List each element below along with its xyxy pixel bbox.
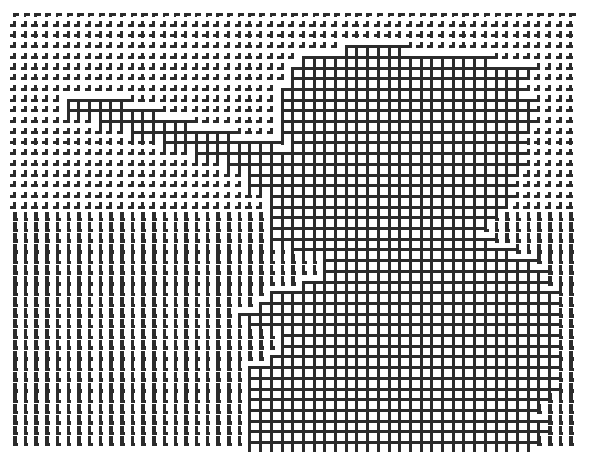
grid-stroke (131, 239, 136, 243)
grid-stroke (45, 250, 50, 254)
grid-stroke (548, 138, 551, 144)
grid-stroke (398, 45, 401, 56)
grid-stroke (184, 74, 187, 80)
grid-stroke (430, 388, 433, 399)
grid-stroke (366, 281, 369, 292)
grid-stroke (569, 250, 574, 254)
grid-stroke (452, 420, 455, 431)
grid-stroke (24, 336, 29, 340)
grid-stroke (99, 42, 102, 48)
grid-stroke (45, 325, 50, 329)
grid-stroke (430, 88, 433, 99)
grid-stroke (505, 109, 508, 120)
grid-stroke (259, 313, 262, 324)
grid-stroke (99, 229, 104, 233)
grid-stroke (109, 378, 114, 382)
grid-stroke (238, 239, 243, 243)
grid-stroke (24, 106, 27, 112)
grid-stroke (313, 88, 316, 99)
grid-stroke (377, 131, 380, 142)
grid-stroke (441, 355, 444, 366)
grid-stroke (259, 398, 262, 409)
grid-stroke (345, 120, 348, 131)
grid-stroke (206, 271, 211, 275)
grid-stroke (559, 304, 564, 308)
grid-stroke (56, 63, 59, 69)
grid-stroke (88, 432, 93, 436)
grid-stroke (152, 261, 157, 265)
grid-stroke (24, 411, 29, 415)
grid-stroke (131, 389, 136, 393)
grid-stroke (409, 441, 412, 452)
grid-stroke (302, 99, 305, 110)
grid-stroke (409, 174, 412, 185)
grid-stroke (238, 74, 241, 80)
grid-stroke (398, 388, 401, 399)
grid-stroke (163, 218, 168, 222)
grid-stroke (388, 227, 391, 238)
grid-stroke (559, 202, 562, 208)
grid-stroke (473, 270, 476, 281)
grid-stroke (452, 313, 455, 324)
grid-stroke (452, 216, 455, 227)
grid-stroke (131, 120, 134, 131)
grid-stroke (377, 109, 380, 120)
grid-stroke (334, 259, 337, 270)
grid-stroke (355, 388, 358, 399)
grid-stroke (355, 281, 358, 292)
grid-stroke (109, 336, 114, 340)
grid-stroke (206, 192, 209, 198)
grid-stroke (56, 218, 61, 222)
grid-stroke (152, 389, 157, 393)
grid-stroke (377, 355, 380, 366)
grid-stroke (302, 334, 305, 345)
grid-stroke (141, 170, 144, 176)
grid-stroke (334, 430, 337, 441)
grid-stroke (505, 313, 508, 324)
grid-stroke (409, 334, 412, 345)
grid-stroke (345, 398, 348, 409)
grid-stroke (152, 432, 157, 436)
grid-stroke (441, 377, 444, 388)
grid-stroke (163, 21, 166, 27)
grid-stroke (323, 281, 326, 292)
grid-stroke (537, 21, 540, 27)
grid-stroke (99, 271, 104, 275)
grid-stroke (569, 411, 574, 415)
grid-stroke (366, 163, 369, 174)
grid-stroke (441, 67, 444, 78)
grid-stroke (24, 239, 29, 243)
grid-stroke (569, 85, 572, 91)
grid-stroke (88, 271, 93, 275)
grid-stroke (152, 13, 155, 17)
grid-stroke (516, 99, 519, 110)
grid-stroke (441, 195, 444, 206)
grid-stroke (88, 421, 93, 425)
grid-stroke (388, 323, 391, 334)
grid-stroke (334, 13, 337, 17)
grid-stroke (67, 346, 72, 350)
grid-stroke (484, 259, 487, 270)
grid-stroke (99, 304, 104, 308)
grid-stroke (216, 53, 219, 59)
grid-stroke (259, 261, 264, 265)
grid-stroke (334, 291, 337, 302)
grid-stroke (195, 443, 200, 447)
grid-stroke (291, 430, 294, 441)
grid-stroke (206, 304, 211, 308)
grid-stroke (323, 345, 326, 356)
grid-stroke (559, 443, 564, 447)
grid-stroke (355, 99, 358, 110)
grid-stroke (88, 346, 93, 350)
grid-stroke (270, 336, 275, 340)
grid-stroke (527, 291, 530, 302)
grid-stroke (527, 229, 532, 233)
grid-stroke (13, 117, 16, 123)
grid-stroke (24, 314, 29, 318)
grid-stroke (569, 160, 572, 166)
grid-stroke (313, 291, 316, 302)
grid-stroke (13, 378, 18, 382)
grid-stroke (366, 420, 369, 431)
grid-stroke (45, 160, 48, 166)
grid-stroke (441, 420, 444, 431)
